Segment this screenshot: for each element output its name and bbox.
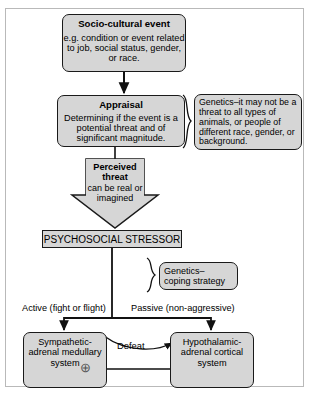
- node-genetics-coping-strategy: Genetics– coping strategy: [159, 262, 238, 290]
- label-defeat: Defeat: [117, 340, 145, 351]
- node-sympathetic-adrenal-medullary-system: Sympathetic- adrenal medullary system: [23, 332, 107, 388]
- node-title: PSYCHOSOCIAL STRESSOR: [43, 231, 181, 248]
- label-passive-branch: Passive (non-aggressive): [131, 303, 235, 313]
- node-perceived-threat: Perceived threat can be real or imagined: [86, 159, 144, 204]
- node-body: Genetics–it may not be a threat to all t…: [199, 98, 297, 147]
- node-appraisal: Appraisal Determining if the event is a …: [57, 95, 185, 147]
- label-active-branch: Active (fight or flight): [22, 303, 106, 313]
- node-body: can be real or imagined: [86, 183, 144, 203]
- node-psychosocial-stressor: PSYCHOSOCIAL STRESSOR: [42, 230, 182, 248]
- node-body: Genetics– coping strategy: [164, 266, 233, 287]
- node-title: Socio-cultural event: [63, 19, 185, 30]
- node-title: Perceived threat: [86, 162, 144, 183]
- figure-canvas: Socio-cultural event e.g. condition or e…: [0, 0, 313, 396]
- node-socio-cultural-event: Socio-cultural event e.g. condition or e…: [62, 14, 186, 72]
- node-body: e.g. condition or event related to job, …: [63, 33, 185, 64]
- node-genetics-threat-note: Genetics–it may not be a threat to all t…: [194, 94, 302, 150]
- node-title: Appraisal: [58, 100, 184, 111]
- node-body: Sympathetic- adrenal medullary system: [24, 337, 106, 368]
- node-body: Hypothalamic- adrenal cortical system: [171, 337, 253, 368]
- node-body: Determining if the event is a potential …: [58, 113, 184, 144]
- plus-sign-icon: ⊕: [80, 360, 91, 375]
- node-hypothalamic-adrenal-cortical-system: Hypothalamic- adrenal cortical system: [170, 332, 254, 388]
